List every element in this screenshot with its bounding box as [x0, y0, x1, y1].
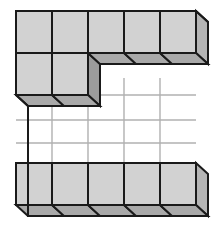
- cube-front-face: [88, 11, 124, 53]
- cube-front-face: [52, 53, 88, 95]
- cube-front-face: [52, 11, 88, 53]
- cube-front-faces-bottom-row: [16, 163, 196, 205]
- cube-front-face: [124, 11, 160, 53]
- cube-front-face: [160, 11, 196, 53]
- cube-front-face: [124, 163, 160, 205]
- cube-figure-canvas: [0, 0, 217, 234]
- cube-front-faces-top-row: [16, 11, 196, 53]
- cube-front-face: [16, 11, 52, 53]
- step-underside-faces: [16, 95, 100, 106]
- notch-ceiling-faces: [88, 53, 208, 64]
- cube-front-face: [160, 163, 196, 205]
- cube-front-face: [52, 163, 88, 205]
- cube-front-face: [88, 163, 124, 205]
- cube-front-face: [16, 53, 52, 95]
- bottom-row-underside-faces: [16, 205, 208, 216]
- bottom-row-cube-group: [16, 163, 208, 216]
- cube-front-face: [16, 163, 52, 205]
- cube-figure-svg: [0, 0, 217, 234]
